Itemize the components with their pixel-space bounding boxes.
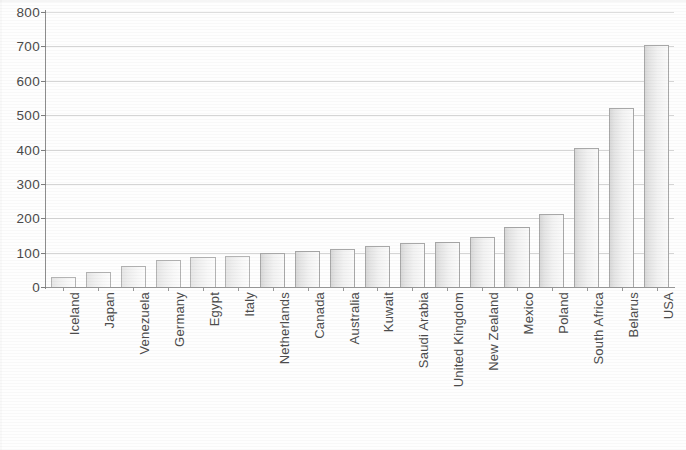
bar — [190, 257, 215, 287]
bar-slot — [81, 12, 116, 287]
x-label-slot: Japan — [81, 292, 116, 447]
x-axis-tick-mark — [238, 287, 239, 291]
x-label-slot: USA — [639, 292, 674, 447]
bar-slot — [639, 12, 674, 287]
x-label-slot: Australia — [325, 292, 360, 447]
y-axis-tick-mark — [41, 184, 46, 185]
bar — [86, 272, 111, 287]
y-axis-tick-mark — [41, 218, 46, 219]
y-axis-tick-label: 600 — [4, 73, 40, 88]
x-axis-tick-mark — [657, 287, 658, 291]
bar — [644, 45, 669, 287]
bar-slot — [325, 12, 360, 287]
bar — [295, 251, 320, 287]
y-axis-tick-label: 200 — [4, 211, 40, 226]
x-label-slot: Saudi Arabia — [395, 292, 430, 447]
y-axis-tick-mark — [41, 253, 46, 254]
bar-slot — [255, 12, 290, 287]
bar-slot — [290, 12, 325, 287]
x-label-slot: Canada — [290, 292, 325, 447]
bar — [330, 249, 355, 287]
x-axis-tick-mark — [587, 287, 588, 291]
bar-slot — [395, 12, 430, 287]
bar — [400, 243, 425, 287]
bar — [539, 214, 564, 287]
x-axis-tick-label: USA — [661, 292, 676, 319]
x-axis-tick-mark — [98, 287, 99, 291]
bar — [225, 256, 250, 287]
y-axis-tick-mark — [41, 46, 46, 47]
x-axis-tick-mark — [412, 287, 413, 291]
y-axis-tick-mark — [41, 287, 46, 288]
bar-slot — [569, 12, 604, 287]
x-axis-tick-mark — [308, 287, 309, 291]
bar-slot — [604, 12, 639, 287]
bar-slot — [186, 12, 221, 287]
x-axis-tick-mark — [273, 287, 274, 291]
y-axis-tick-mark — [41, 12, 46, 13]
x-axis-tick-labels: IcelandJapanVenezuelaGermanyEgyptItalyNe… — [46, 292, 674, 447]
y-axis-tick-label: 800 — [4, 5, 40, 20]
bar-chart: 0100200300400500600700800 IcelandJapanVe… — [0, 0, 686, 450]
x-axis-tick-mark — [447, 287, 448, 291]
x-axis-tick-mark — [63, 287, 64, 291]
x-label-slot: United Kingdom — [430, 292, 465, 447]
x-label-slot: Germany — [151, 292, 186, 447]
y-axis-tick-label: 100 — [4, 245, 40, 260]
bar — [156, 260, 181, 288]
y-axis-tick-label: 300 — [4, 176, 40, 191]
x-axis-tick-mark — [622, 287, 623, 291]
x-axis-tick-mark — [133, 287, 134, 291]
bar — [574, 148, 599, 287]
x-axis-tick-mark — [552, 287, 553, 291]
bar-slot — [220, 12, 255, 287]
bars-layer — [46, 12, 674, 287]
bar — [609, 108, 634, 287]
bar-slot — [116, 12, 151, 287]
x-label-slot: Italy — [220, 292, 255, 447]
x-label-slot: South Africa — [569, 292, 604, 447]
x-label-slot: Poland — [534, 292, 569, 447]
bar — [435, 242, 460, 287]
y-axis-tick-labels: 0100200300400500600700800 — [0, 0, 40, 450]
y-axis-tick-label: 400 — [4, 142, 40, 157]
x-label-slot: New Zealand — [465, 292, 500, 447]
x-axis-line — [45, 287, 675, 288]
x-label-slot: Iceland — [46, 292, 81, 447]
x-label-slot: Mexico — [500, 292, 535, 447]
bar — [365, 246, 390, 287]
x-label-slot: Netherlands — [255, 292, 290, 447]
x-label-slot: Venezuela — [116, 292, 151, 447]
y-axis-tick-mark — [41, 115, 46, 116]
bar — [470, 237, 495, 287]
y-axis-tick-label: 500 — [4, 108, 40, 123]
bar-slot — [465, 12, 500, 287]
bar — [260, 253, 285, 287]
bar — [51, 277, 76, 287]
bar — [504, 227, 529, 287]
x-axis-tick-mark — [517, 287, 518, 291]
bar — [121, 266, 146, 287]
bar-slot — [534, 12, 569, 287]
y-axis-tick-mark — [41, 81, 46, 82]
y-axis-tick-label: 0 — [4, 280, 40, 295]
bar-slot — [360, 12, 395, 287]
x-axis-tick-mark — [203, 287, 204, 291]
y-axis-tick-mark — [41, 150, 46, 151]
bar-slot — [430, 12, 465, 287]
bar-slot — [500, 12, 535, 287]
x-label-slot: Kuwait — [360, 292, 395, 447]
bar-slot — [46, 12, 81, 287]
x-axis-tick-mark — [482, 287, 483, 291]
bar-slot — [151, 12, 186, 287]
x-label-slot: Belarus — [604, 292, 639, 447]
x-axis-tick-mark — [377, 287, 378, 291]
x-label-slot: Egypt — [186, 292, 221, 447]
x-axis-tick-mark — [168, 287, 169, 291]
x-axis-tick-mark — [343, 287, 344, 291]
y-axis-tick-label: 700 — [4, 39, 40, 54]
